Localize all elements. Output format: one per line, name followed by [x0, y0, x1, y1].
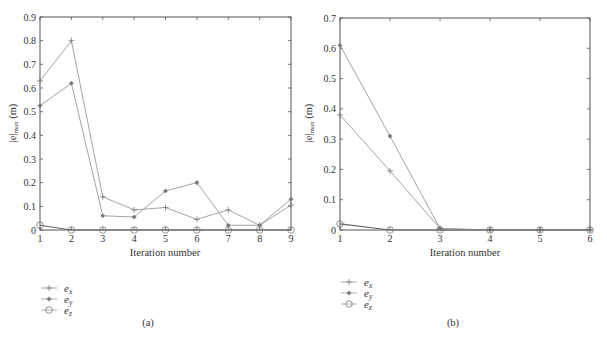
- legend-b: exeyez: [341, 276, 373, 313]
- data-point-marker: [163, 205, 169, 211]
- y-tick-label: 0.1: [324, 194, 337, 205]
- legend-marker-icon: [347, 291, 352, 296]
- caption-a: (a): [142, 317, 154, 329]
- chart-panel-b: 00.10.20.30.40.50.60.7123456: [324, 13, 594, 245]
- y-tick-label: 0: [331, 225, 336, 236]
- svg-text:|e|max (m): |e|max (m): [7, 103, 20, 142]
- x-tick-label: 3: [438, 233, 443, 244]
- y-tick-label: 0.3: [324, 134, 337, 145]
- data-point-marker: [225, 207, 231, 213]
- plot-frame: [340, 18, 590, 230]
- x-tick-label: 2: [388, 233, 393, 244]
- x-tick-label: 5: [163, 233, 168, 244]
- series-e-y: [338, 43, 593, 233]
- legend-marker-icon: [47, 297, 52, 302]
- y-tick-label: 0.8: [24, 35, 37, 46]
- series-e-x: [337, 112, 593, 233]
- y-tick-label: 0.2: [324, 164, 337, 175]
- x-tick-label: 4: [488, 233, 493, 244]
- x-tick-label: 6: [194, 233, 199, 244]
- series-e-z: [337, 221, 594, 234]
- x-axis-ticks: 123456: [338, 18, 593, 244]
- y-tick-label: 0.4: [324, 103, 337, 114]
- data-point-marker: [288, 202, 294, 208]
- data-point-marker: [338, 43, 343, 48]
- legend-item-e-z: ez: [41, 304, 72, 319]
- y-tick-label: 0.4: [24, 130, 37, 141]
- x-tick-label: 6: [588, 233, 593, 244]
- y-tick-label: 0.2: [24, 177, 37, 188]
- legend-a: exeyez: [41, 282, 73, 319]
- x-tick-label: 1: [38, 233, 43, 244]
- legend-marker-icon: [346, 279, 352, 285]
- y-tick-label: 0.7: [324, 13, 337, 24]
- y-tick-label: 0.5: [324, 73, 337, 84]
- caption-b: (b): [447, 317, 460, 329]
- y-axis-label-a: |e|max (m): [7, 103, 20, 142]
- y-axis-ticks: 00.10.20.30.40.50.60.7: [324, 13, 591, 236]
- y-tick-label: 0.6: [324, 43, 337, 54]
- y-axis-label-b: |e|max (m): [303, 103, 316, 142]
- data-point-marker: [388, 134, 393, 139]
- chart-panel-a: 00.10.20.30.40.50.60.70.80.9123456789: [24, 12, 295, 245]
- data-point-marker: [100, 194, 106, 200]
- x-axis-label-b: Iteration number: [430, 247, 501, 258]
- x-tick-label: 8: [257, 233, 262, 244]
- x-tick-label: 5: [538, 233, 543, 244]
- svg-text:|e|max (m): |e|max (m): [303, 103, 316, 142]
- legend-item-e-z: ez: [341, 298, 372, 313]
- y-tick-label: 0.5: [24, 106, 37, 117]
- plot-frame: [40, 17, 291, 230]
- y-tick-label: 0.1: [24, 201, 37, 212]
- legend-marker-icon: [46, 285, 52, 291]
- x-tick-label: 2: [69, 233, 74, 244]
- figure: 00.10.20.30.40.50.60.70.80.9123456789 00…: [0, 0, 607, 344]
- y-tick-label: 0: [31, 225, 36, 236]
- data-point-marker: [100, 213, 105, 218]
- y-tick-label: 0.3: [24, 154, 37, 165]
- y-axis-ticks: 00.10.20.30.40.50.60.70.80.9: [24, 12, 292, 236]
- data-point-marker: [131, 207, 137, 213]
- x-tick-label: 9: [289, 233, 294, 244]
- y-tick-label: 0.7: [24, 59, 37, 70]
- data-point-marker: [194, 216, 200, 222]
- x-tick-label: 7: [226, 233, 231, 244]
- y-tick-label: 0.9: [24, 12, 37, 23]
- x-tick-label: 4: [132, 233, 137, 244]
- x-axis-label-a: Iteration number: [130, 247, 201, 258]
- x-tick-label: 3: [100, 233, 105, 244]
- series-e-x: [37, 38, 294, 229]
- y-tick-label: 0.6: [24, 83, 37, 94]
- x-tick-label: 1: [338, 233, 343, 244]
